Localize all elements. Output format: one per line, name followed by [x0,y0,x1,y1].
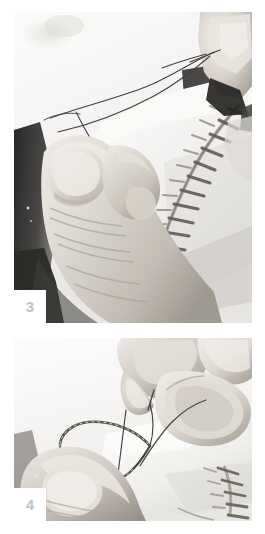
photo-panel-step-4: 4 [14,338,252,521]
step-number-text: 3 [26,299,34,315]
photo-image-step-4 [14,338,252,521]
step-number-badge-3: 3 [14,290,46,323]
photo-panel-step-3: 3 [14,12,252,323]
step-number-text: 4 [26,497,34,513]
page-root: 3 [0,0,265,534]
photo-image-step-3 [14,12,252,323]
step-number-badge-4: 4 [14,488,46,521]
